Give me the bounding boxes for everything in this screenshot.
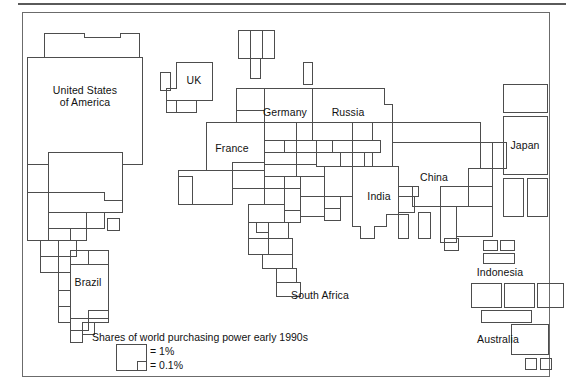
shape-balkans-b bbox=[296, 140, 316, 152]
shape-new-zealand-b bbox=[540, 358, 551, 369]
shape-west-africa-a bbox=[248, 222, 268, 238]
shape-uk bbox=[166, 62, 212, 112]
label-united-states: United States of America bbox=[53, 84, 117, 108]
shape-norway bbox=[238, 30, 250, 58]
label-indonesia: Indonesia bbox=[477, 266, 523, 278]
legend-label-large: = 1% bbox=[150, 345, 174, 357]
shape-japan-north bbox=[503, 84, 547, 112]
shape-chile bbox=[58, 272, 70, 290]
shape-centralasia-a bbox=[316, 152, 340, 166]
shape-central-america-b bbox=[48, 192, 122, 212]
shape-saudi bbox=[300, 196, 324, 216]
shape-austria bbox=[284, 140, 296, 152]
shape-kazakhstan bbox=[352, 140, 380, 152]
shape-japan-south-b bbox=[527, 178, 547, 216]
shape-italy bbox=[232, 162, 264, 188]
label-india: India bbox=[367, 190, 390, 202]
shape-gulf-b bbox=[324, 208, 340, 220]
shape-china-inner-1 bbox=[392, 122, 480, 142]
label-brazil: Brazil bbox=[75, 276, 102, 288]
shape-bolivia bbox=[58, 256, 70, 272]
shape-germany-inner-split-2 bbox=[236, 110, 264, 122]
shape-belarus bbox=[352, 122, 372, 140]
shape-caribbean-c bbox=[48, 228, 70, 240]
shape-paraguay bbox=[88, 310, 108, 322]
shape-malaysia bbox=[418, 212, 430, 238]
shape-turkey bbox=[300, 176, 324, 196]
shape-canada bbox=[44, 33, 139, 57]
shape-central-america-a bbox=[27, 192, 48, 240]
shape-central-africa bbox=[248, 238, 268, 254]
shape-sri-lanka bbox=[398, 214, 408, 238]
label-germany: Germany bbox=[263, 106, 307, 118]
shape-caucasus-b bbox=[332, 140, 352, 152]
shape-nigeria bbox=[268, 238, 292, 254]
shape-finland bbox=[262, 30, 274, 58]
shape-baltic-strip bbox=[303, 62, 312, 84]
shape-egypt bbox=[284, 188, 300, 210]
shape-west-africa-b bbox=[268, 222, 288, 238]
shape-east-africa bbox=[262, 254, 292, 268]
shape-southern-africa-a bbox=[276, 268, 296, 282]
shape-iberia bbox=[178, 170, 232, 204]
label-uk: UK bbox=[187, 74, 202, 86]
shape-japan-south-a bbox=[503, 178, 523, 216]
shape-argentina-a bbox=[58, 290, 70, 306]
label-france: France bbox=[215, 142, 248, 154]
legend-label-small: = 0.1% bbox=[150, 359, 183, 371]
shape-czech bbox=[264, 140, 284, 152]
shape-caribbean-d bbox=[70, 228, 86, 240]
shape-bulgaria bbox=[284, 176, 300, 188]
shape-nepal bbox=[398, 186, 418, 196]
shape-portugal bbox=[178, 176, 192, 204]
shape-uruguay bbox=[70, 318, 88, 330]
shape-levant bbox=[264, 188, 284, 204]
label-australia: Australia bbox=[477, 333, 519, 345]
shape-indonesia-d bbox=[481, 310, 531, 322]
label-japan: Japan bbox=[510, 139, 539, 151]
shape-philippines-a bbox=[483, 240, 497, 250]
shape-colombia bbox=[40, 240, 58, 256]
shape-united-states bbox=[27, 57, 142, 164]
shape-usa-west-strip bbox=[27, 164, 48, 192]
shape-ireland bbox=[160, 72, 170, 90]
shape-sweden bbox=[250, 30, 262, 58]
shape-hungary bbox=[264, 152, 296, 164]
shape-gulf-a bbox=[324, 196, 340, 208]
shape-sa-tail-1 bbox=[70, 330, 82, 342]
shape-greece bbox=[264, 176, 284, 188]
shape-seasia-a bbox=[440, 186, 468, 206]
shape-china bbox=[392, 122, 492, 206]
shape-caucasus-a bbox=[316, 140, 332, 152]
label-united-states-line1: United States bbox=[53, 84, 117, 96]
shape-new-zealand-a bbox=[525, 358, 536, 369]
shape-indonesia-a bbox=[471, 283, 501, 307]
shape-caribbean-b bbox=[86, 212, 104, 228]
shape-pakistan bbox=[352, 152, 372, 166]
label-south-africa: South Africa bbox=[291, 289, 349, 301]
cartogram-figure: United States of America UK Germany Fran… bbox=[0, 0, 574, 390]
shape-philippines-c bbox=[483, 253, 514, 263]
shape-korea-a bbox=[480, 142, 506, 168]
shape-india bbox=[352, 166, 398, 238]
shape-romania bbox=[264, 164, 296, 176]
legend-swatch-small bbox=[137, 361, 146, 370]
shape-philippines-b bbox=[500, 240, 514, 250]
figure-caption: Shares of world purchasing power early 1… bbox=[92, 331, 308, 343]
shape-caribbean-a bbox=[48, 212, 86, 228]
shape-indonesia-b bbox=[504, 283, 534, 307]
shape-argentina-b bbox=[58, 306, 70, 322]
shape-benelux bbox=[166, 100, 196, 112]
shape-korea-b bbox=[468, 168, 492, 186]
shape-africa-extra-1 bbox=[256, 222, 268, 232]
shape-africa-extra-2 bbox=[284, 210, 300, 222]
shape-vietnam bbox=[440, 206, 456, 242]
shape-ukraine bbox=[312, 122, 352, 140]
shape-balkans-c bbox=[296, 152, 316, 164]
shape-balkans-a bbox=[296, 122, 312, 140]
shape-venezuela bbox=[58, 240, 76, 256]
label-china: China bbox=[420, 171, 448, 183]
shape-mexico bbox=[48, 152, 122, 200]
shape-poland bbox=[264, 122, 296, 140]
shape-north-africa bbox=[248, 204, 284, 222]
